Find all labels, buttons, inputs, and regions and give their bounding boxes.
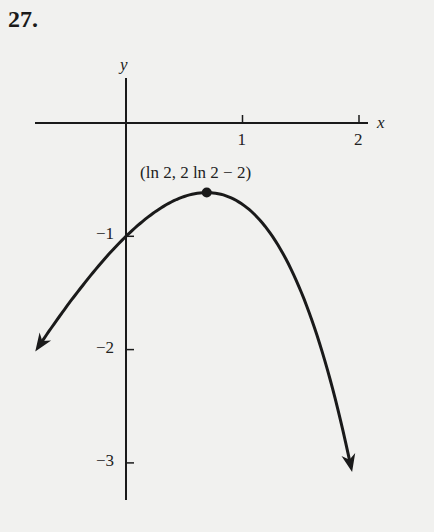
x-tick-label: 2 bbox=[354, 130, 363, 149]
y-axis-label: y bbox=[118, 55, 128, 74]
maximum-point-marker bbox=[202, 188, 212, 198]
function-curve bbox=[39, 193, 351, 467]
y-tick-label: −3 bbox=[96, 451, 114, 470]
function-graph: x y 12−1−2−3 (ln 2, 2 ln 2 − 2) bbox=[0, 0, 434, 532]
maximum-point-label: (ln 2, 2 ln 2 − 2) bbox=[140, 163, 251, 182]
x-axis-label: x bbox=[376, 113, 385, 132]
y-tick-label: −1 bbox=[96, 224, 114, 243]
arrow-left-icon bbox=[35, 333, 51, 352]
x-tick-label: 1 bbox=[238, 130, 247, 149]
y-tick-label: −2 bbox=[96, 338, 114, 357]
